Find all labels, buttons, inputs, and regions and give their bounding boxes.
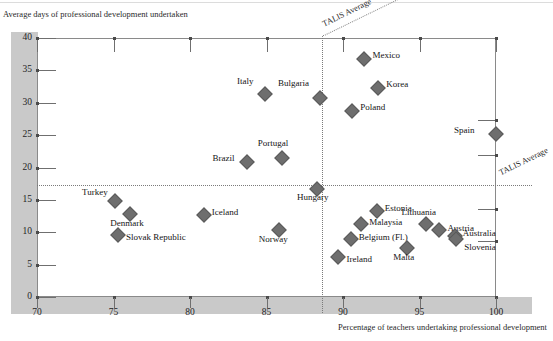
y-tick-label: 40 bbox=[12, 32, 32, 42]
y-tick-label: 10 bbox=[12, 226, 32, 236]
x-tick-label: 85 bbox=[252, 307, 282, 317]
y-tick-label: 0 bbox=[12, 291, 32, 301]
x-tick-mark-top bbox=[190, 38, 191, 52]
talis-average-horizontal-line bbox=[37, 185, 532, 186]
y-tick-mark bbox=[39, 168, 56, 169]
x-tick-dot-top bbox=[342, 37, 345, 40]
x-tick-label: 90 bbox=[328, 307, 358, 317]
data-point-label: Denmark bbox=[110, 218, 144, 228]
x-tick-dot-top bbox=[189, 37, 192, 40]
data-point-label: Italy bbox=[237, 76, 254, 86]
y-tick-dot-right bbox=[495, 154, 498, 157]
x-tick-label: 95 bbox=[405, 307, 435, 317]
data-point-label: Mexico bbox=[372, 50, 400, 60]
x-tick-mark-top bbox=[420, 38, 421, 52]
data-point-label: Lithuania bbox=[402, 207, 437, 217]
data-point-label: Malta bbox=[393, 252, 414, 262]
data-point-label: Portugal bbox=[258, 138, 289, 148]
x-tick-dot-top bbox=[266, 37, 269, 40]
scatter-chart: Average days of professional development… bbox=[0, 0, 553, 341]
data-point-label: Korea bbox=[386, 79, 408, 89]
y-tick-label: 20 bbox=[12, 162, 32, 172]
y-axis-title: Average days of professional development… bbox=[3, 9, 188, 19]
y-tick-mark bbox=[39, 297, 56, 298]
x-axis-title: Percentage of teachers undertaking profe… bbox=[338, 322, 547, 332]
talis-average-vertical-line bbox=[322, 38, 323, 313]
y-tick-mark bbox=[39, 38, 56, 39]
y-tick-label: 30 bbox=[12, 97, 32, 107]
x-tick-mark-top bbox=[267, 38, 268, 52]
top-divider-rule bbox=[0, 2, 553, 3]
talis-average-right-label: TALIS Average bbox=[497, 145, 549, 177]
plot-area bbox=[37, 38, 496, 297]
y-tick-mark bbox=[39, 265, 56, 266]
x-tick-mark-top bbox=[496, 38, 497, 52]
y-tick-label: 15 bbox=[12, 194, 32, 204]
data-point-label: Australia bbox=[463, 228, 496, 238]
x-tick-mark-top bbox=[37, 38, 38, 52]
data-point-label: Turkey bbox=[82, 187, 108, 197]
y-tick-label: 35 bbox=[12, 64, 32, 74]
y-tick-mark-right bbox=[478, 155, 495, 156]
x-tick-label: 75 bbox=[99, 307, 129, 317]
data-point-label: Hungary bbox=[297, 192, 329, 202]
y-tick-mark-right bbox=[478, 209, 495, 210]
data-point-label: Ireland bbox=[346, 254, 371, 264]
data-point-label: Bulgaria bbox=[278, 78, 309, 88]
x-tick-label: 80 bbox=[175, 307, 205, 317]
data-point-label: Slovak Republic bbox=[126, 232, 186, 242]
data-point-label: Slovenia bbox=[464, 242, 496, 252]
data-point-label: Spain bbox=[454, 125, 475, 135]
x-tick-dot-top bbox=[113, 37, 116, 40]
y-tick-dot-right bbox=[495, 119, 498, 122]
x-tick-mark-top bbox=[114, 38, 115, 52]
y-tick-dot-right bbox=[495, 208, 498, 211]
y-tick-mark bbox=[39, 232, 56, 233]
x-tick-label: 100 bbox=[481, 307, 511, 317]
data-point-label: Brazil bbox=[213, 153, 235, 163]
y-tick-label: 25 bbox=[12, 129, 32, 139]
data-point-label: Norway bbox=[259, 234, 288, 244]
x-tick-label: 70 bbox=[22, 307, 52, 317]
data-point-label: Belgium (Fl.) bbox=[359, 232, 408, 242]
y-tick-mark bbox=[39, 70, 56, 71]
data-point-label: Poland bbox=[360, 102, 385, 112]
y-tick-mark-right bbox=[478, 120, 495, 121]
data-point-label: Malaysia bbox=[369, 217, 402, 227]
y-tick-mark bbox=[39, 103, 56, 104]
y-tick-mark bbox=[39, 200, 56, 201]
x-tick-dot-top bbox=[495, 37, 498, 40]
x-tick-dot-top bbox=[419, 37, 422, 40]
data-point-label: Iceland bbox=[212, 207, 238, 217]
y-tick-label: 5 bbox=[12, 259, 32, 269]
x-tick-mark-top bbox=[343, 38, 344, 52]
y-tick-mark bbox=[39, 135, 56, 136]
